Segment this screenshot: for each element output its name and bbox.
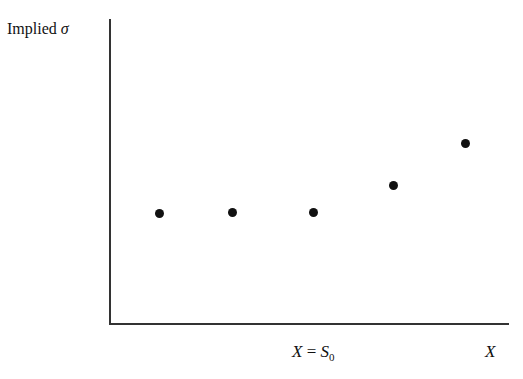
x-annotation-strike-equals-spot: X = S0 <box>292 342 334 363</box>
x-axis <box>109 323 509 325</box>
data-point <box>228 208 237 217</box>
equals-sign: = <box>302 342 320 361</box>
x-axis-label: X <box>485 342 495 362</box>
s-symbol: S <box>320 342 329 361</box>
x-symbol: X <box>292 342 302 361</box>
subscript-zero: 0 <box>329 351 335 363</box>
y-axis-label-text: Implied <box>7 20 61 37</box>
y-axis <box>109 19 111 325</box>
data-point <box>389 181 398 190</box>
sigma-symbol: σ <box>61 20 69 37</box>
data-point <box>461 139 470 148</box>
data-point <box>155 209 164 218</box>
y-axis-label: Implied σ <box>7 20 69 38</box>
data-point <box>309 208 318 217</box>
